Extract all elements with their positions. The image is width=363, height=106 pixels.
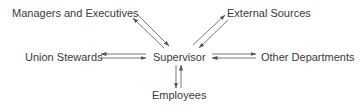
node-employees: Employees [152,89,206,101]
arrow-pair-employees [176,65,181,88]
arrow-pair-union [101,54,146,58]
node-managers-and-executives: Managers and Executives [12,7,139,19]
node-other-departments: Other Departments [261,51,355,63]
arrow-pair-external [193,15,228,48]
arrow-to-managers [133,18,164,48]
node-union-stewards: Union Stewards [25,51,103,63]
arrow-pair-other [212,54,256,58]
arrow-to-external [193,15,225,45]
node-external-sources: External Sources [227,7,311,19]
arrow-pair-managers [133,14,169,48]
arrow-to-supervisor-from-external [199,20,228,48]
node-supervisor: Supervisor [153,51,206,63]
arrow-to-supervisor-from-managers [137,14,169,46]
